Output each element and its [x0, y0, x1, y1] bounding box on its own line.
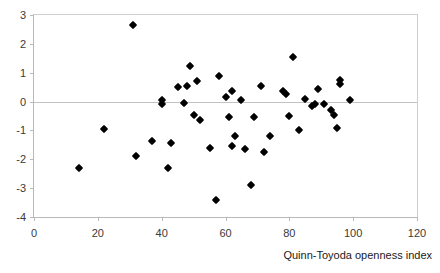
y-axis-label: -1	[16, 124, 26, 136]
x-axis-tick	[417, 217, 418, 221]
scatter-chart: 3210-1-2-3-4020406080100120 Quinn-Toyoda…	[0, 0, 440, 273]
y-axis-label: -2	[16, 153, 26, 165]
cutoff-caption	[66, 0, 296, 2]
x-axis-tick	[34, 217, 35, 221]
x-axis-label: 40	[156, 227, 168, 239]
x-axis-label: 80	[283, 227, 295, 239]
x-axis-tick	[289, 217, 290, 221]
y-axis-label: 0	[20, 96, 26, 108]
x-axis-label: 0	[31, 227, 37, 239]
y-axis-label: 3	[20, 9, 26, 21]
y-axis-tick	[30, 44, 34, 45]
y-axis-tick	[30, 130, 34, 131]
x-axis-title: Quinn-Toyoda openness index	[283, 249, 432, 261]
y-axis-label: -3	[16, 182, 26, 194]
y-axis-tick	[30, 188, 34, 189]
y-axis-tick	[30, 15, 34, 16]
x-axis-label: 20	[92, 227, 104, 239]
x-axis-label: 100	[344, 227, 362, 239]
x-axis-label: 120	[408, 227, 426, 239]
y-axis-tick	[30, 73, 34, 74]
x-axis-tick	[353, 217, 354, 221]
y-axis-label: -4	[16, 211, 26, 223]
y-axis-tick	[30, 159, 34, 160]
plot-area: 3210-1-2-3-4020406080100120	[33, 14, 418, 218]
x-axis-tick	[98, 217, 99, 221]
y-axis-label: 1	[20, 67, 26, 79]
zero-reference-line	[34, 102, 417, 103]
x-axis-tick	[162, 217, 163, 221]
x-axis-tick	[226, 217, 227, 221]
y-axis-label: 2	[20, 38, 26, 50]
x-axis-label: 60	[219, 227, 231, 239]
